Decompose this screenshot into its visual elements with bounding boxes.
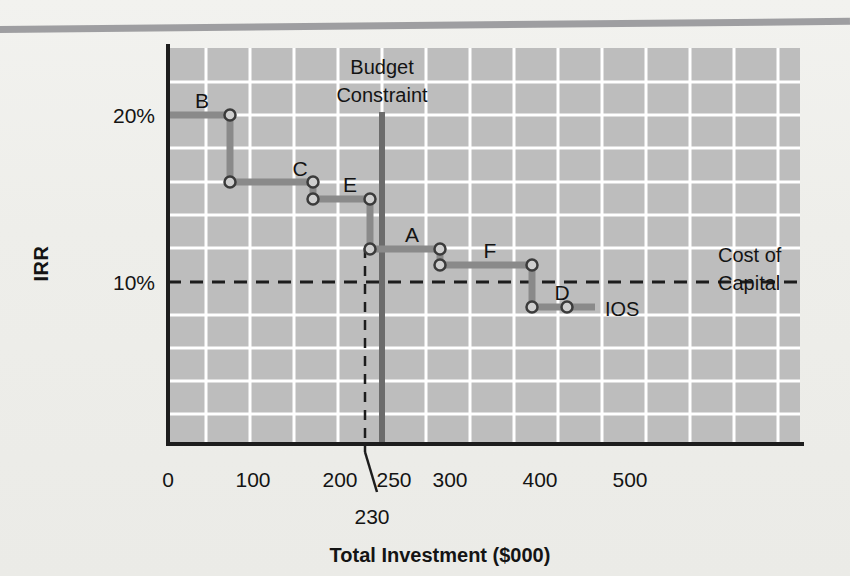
x-tick-250: 250 xyxy=(376,468,411,491)
x-tick-200: 200 xyxy=(322,468,357,491)
x-tick-500: 500 xyxy=(612,468,647,491)
marker-c-end xyxy=(308,177,319,188)
marker-a-start xyxy=(365,244,376,255)
total-accepted-leader xyxy=(365,452,377,492)
project-label-b: B xyxy=(195,89,209,112)
ios-chart: 20% 10% 0 100 200 250 300 400 500 230 To… xyxy=(0,0,850,576)
project-label-c: C xyxy=(292,157,307,180)
marker-b-end xyxy=(225,110,236,121)
project-label-a: A xyxy=(405,223,419,246)
project-label-e: E xyxy=(343,173,357,196)
marker-c-start xyxy=(225,177,236,188)
marker-a-end xyxy=(435,244,446,255)
marker-f-end xyxy=(527,260,538,271)
marker-e-start xyxy=(308,194,319,205)
y-tick-10: 10% xyxy=(113,271,155,294)
x-tick-100: 100 xyxy=(235,468,270,491)
x-tick-0: 0 xyxy=(162,468,174,491)
marker-d-start xyxy=(527,302,538,313)
budget-constraint-label-line1: Budget xyxy=(350,56,414,78)
x-tick-300: 300 xyxy=(432,468,467,491)
x-axis-title: Total Investment ($000) xyxy=(330,544,551,566)
budget-constraint-label-line2: Constraint xyxy=(336,84,428,106)
chart-svg: 20% 10% 0 100 200 250 300 400 500 230 To… xyxy=(0,0,850,576)
y-tick-20: 20% xyxy=(113,104,155,127)
marker-f-start xyxy=(435,260,446,271)
project-label-d: D xyxy=(554,281,569,304)
x-tick-400: 400 xyxy=(522,468,557,491)
marker-e-end xyxy=(365,194,376,205)
ios-series-label: IOS xyxy=(605,298,639,320)
cost-of-capital-label-line1: Cost of xyxy=(718,244,782,266)
x-tick-230: 230 xyxy=(354,505,389,528)
cost-of-capital-label-line2: Capital xyxy=(718,272,780,294)
project-label-f: F xyxy=(484,239,497,262)
